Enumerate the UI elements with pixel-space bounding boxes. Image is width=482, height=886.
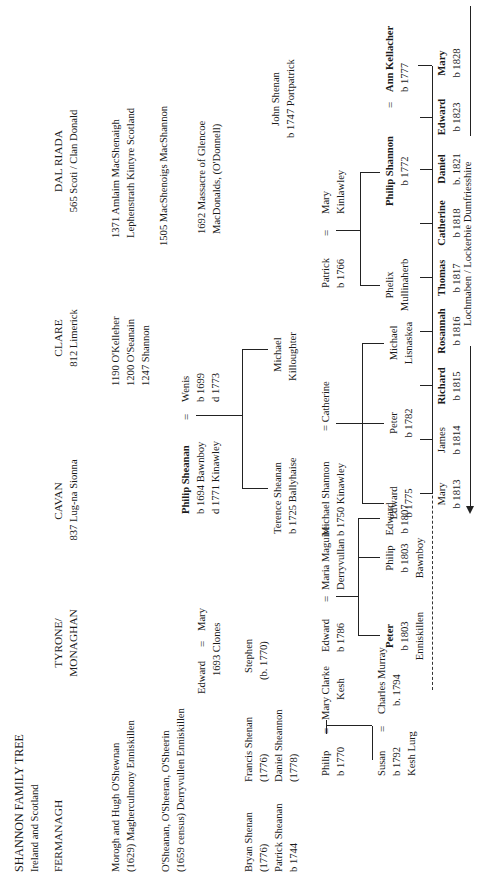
edward-1786-name: Edward	[320, 619, 333, 652]
fermanagh-person-2-year: (1776)	[258, 754, 271, 782]
tyrone-edward-name: Edward	[196, 661, 209, 694]
ann-kellacher-detail: b 1777	[399, 63, 412, 92]
connector-philip-clarke-bar	[326, 720, 327, 734]
connector-peter1782-drop	[362, 423, 384, 424]
edward-child-1-place: Bawnboy	[414, 522, 427, 594]
fermanagh-note-0-line1: Morogh and Hugh O'Shewnan	[110, 743, 123, 872]
connector-michael-lisnaskea-drop	[362, 343, 384, 344]
region-header-fermanagh: FERMANAGH	[52, 800, 65, 872]
connector-terence-drop	[242, 488, 268, 489]
region-header-tyrone-line1: TYRONE/	[52, 588, 65, 698]
riser-catherine1818	[420, 223, 432, 224]
philip-sheanan-name: Philip Sheanan	[180, 445, 193, 514]
maria-maguire-name: Maria Maguire	[320, 526, 333, 590]
tyrone-stephen-name: Stephen	[243, 639, 256, 673]
fermanagh-note-1-line2: (1659 census) Derryvullen Enniskillen	[175, 708, 188, 872]
chart-canvas: SHANNON FAMILY TREE Ireland and Scotland…	[0, 0, 482, 886]
riser-daniel1821	[420, 169, 432, 170]
dalriada-note-2-line1: 1692 Massacre of Glencoe	[196, 121, 209, 234]
charles-murray-detail: b. 1794	[391, 674, 404, 706]
page-subtitle: Ireland and Scotland	[29, 784, 42, 872]
tyrone-mary-name: Mary	[196, 608, 209, 631]
catherine-name: Catherine	[320, 381, 331, 422]
connector-philip-clarke-down	[326, 725, 372, 726]
edward-child-0-place: Enniskillen	[414, 590, 427, 682]
philip-1770-name: Philip	[320, 751, 333, 776]
philip-sheanan-born: b 1694 Bawnboy	[195, 442, 208, 514]
riser-rosannah1816	[420, 331, 432, 332]
michael-killoughter-detail: Killoughter	[287, 332, 300, 381]
scotland-arrow-line	[470, 346, 471, 506]
connector-michael-bar-right	[362, 344, 363, 424]
dalriada-note-0-line1: 1371 Amlaim MacShenaigh	[110, 119, 123, 238]
charles-murray-name: Charles Murray	[376, 647, 389, 714]
fermanagh-person-1-year: b 1744	[288, 843, 301, 872]
connector-patrick-bar-left	[360, 231, 361, 286]
michael-shannon-name: Michael Shannon	[320, 462, 333, 536]
philip-1770-detail: b 1770	[335, 747, 348, 776]
wenis-died: d 1773	[210, 373, 223, 402]
scotland-region-label: Lochmaben / Lockerbie Dumfriesshire	[462, 162, 475, 326]
riser-edward1823	[420, 117, 432, 118]
michael-killoughter-name: Michael	[272, 337, 285, 372]
philip-sheanan-died: d 1771 Kinawley	[210, 441, 223, 514]
children-spine	[432, 66, 433, 494]
tyrone-marriage-detail: 1693 Clones	[211, 623, 224, 676]
john-shenan-name: John Shenan	[270, 34, 283, 164]
dalriada-note-1-line1: 1505 MacShenoigs MacShannon	[158, 106, 171, 246]
philip-child-8-detail: b 1828	[451, 28, 464, 98]
patrick-name: Patrick	[320, 258, 333, 288]
connector-patrick-bar-right	[360, 173, 361, 231]
tyrone-marriage-equals: =	[196, 641, 208, 647]
terence-sheanan-name: Terence Sheanan	[272, 462, 285, 534]
connector-philip-bar-left	[242, 416, 243, 489]
connector-michael-down	[336, 423, 362, 424]
ann-kellacher-name: Ann Kellacher	[384, 26, 397, 92]
dalriada-note-0-line2: Lephenstrath Kintyre Scotland	[125, 108, 138, 238]
edward-child-2-name: Edward	[384, 487, 397, 551]
connector-susan-bar	[372, 726, 373, 760]
philip-shannon-name: Philip Shannon	[384, 118, 397, 224]
riser-mary1813	[420, 493, 432, 494]
michael-child-1-name: Peter	[388, 385, 401, 461]
children-spine-endcap	[418, 65, 432, 66]
terence-sheanan-detail: b 1725 Ballyhaise	[287, 458, 300, 535]
connector-patrick-down	[336, 230, 360, 231]
connector-michaelk-drop	[242, 349, 268, 350]
region-subtext-cavan: 837 Lug-na Sionna	[68, 430, 81, 570]
michael-shannon-equals: =	[320, 425, 331, 431]
john-shenan-detail: b 1747 Portpatrick	[285, 21, 298, 176]
connector-peter1803-drop	[358, 635, 380, 636]
connector-edwardmaria-bar-right	[358, 519, 359, 597]
riser-richard1815	[420, 385, 432, 386]
patrick-spouse-detail: Kinlawley	[335, 170, 348, 214]
fermanagh-note-0-line2: (1629) Magherculmony Enniskillen	[125, 720, 138, 872]
edward-1786-detail: b 1786	[335, 623, 348, 652]
philip-child-8-name: Mary	[436, 28, 449, 98]
connector-edwardmaria-bar-left	[358, 597, 359, 636]
patrick-detail: b 1766	[335, 259, 348, 288]
fermanagh-person-0-year: (1776)	[258, 844, 271, 872]
connector-philip1803-drop	[358, 557, 380, 558]
fermanagh-person-3-year: (1778)	[288, 754, 301, 782]
philip-shannon-detail: b 1772	[399, 118, 412, 224]
riser-james1814	[420, 439, 432, 440]
connector-philipshannon-drop	[360, 172, 380, 173]
philip-shannon-marriage-equals: =	[384, 102, 396, 108]
edward-child-0-detail: b 1803	[399, 604, 412, 668]
phelix-detail: Mullinaherb	[399, 240, 412, 330]
connector-michael-bar-left	[362, 424, 363, 504]
connector-phelix-drop	[360, 285, 380, 286]
michael-child-1-detail: b 1782	[403, 385, 416, 461]
wenis-born: b 1699	[195, 373, 208, 402]
susan-place: Kesh Lurg	[406, 731, 419, 776]
clare-note-2: 1247 Shannon	[140, 325, 153, 386]
dalriada-note-2-line2: MacDonalds, (O'Donnell)	[211, 124, 224, 234]
mary-clarke-detail: Kesh	[335, 678, 348, 700]
susan-detail: b 1792	[391, 747, 404, 776]
clare-note-0: 1190 O'Kelleher	[110, 317, 123, 386]
wenis-name: Wenis	[180, 376, 193, 402]
phelix-name: Phelix	[384, 250, 397, 320]
scotland-arrow-line-right	[470, 6, 471, 136]
patrick-spouse-name: Mary	[320, 191, 333, 214]
